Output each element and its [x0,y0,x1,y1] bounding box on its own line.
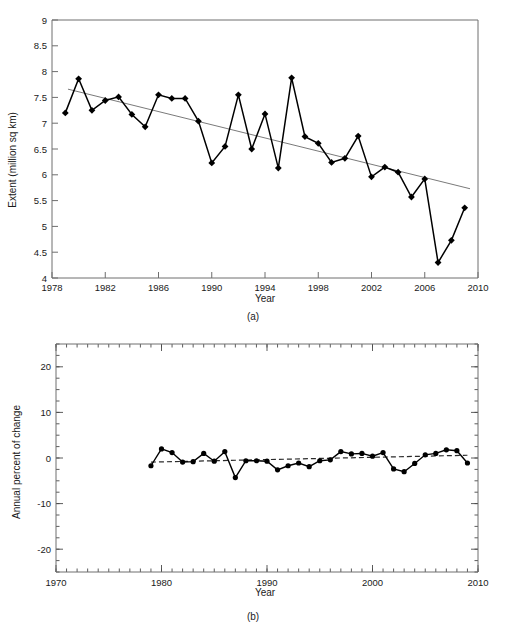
chart-b-data-point [148,463,153,468]
chart-b-x-tick-label: 1980 [151,577,172,588]
chart-b-data-point [465,460,470,465]
chart-b-data-point [169,450,174,455]
chart-b-y-axis-ticks: -20-1001020 [37,344,478,572]
chart-a-data-point [461,204,468,211]
chart-a-data-point [448,237,455,244]
chart-b-data-point [402,469,407,474]
chart-b-data-point [359,451,364,456]
chart-b-data-point [254,458,259,463]
chart-b-data-markers [148,446,470,480]
chart-b-data-point [370,454,375,459]
chart-a-y-tick-label: 8 [42,66,47,77]
chart-b-data-point [317,458,322,463]
chart-b-y-tick-label: -10 [37,498,51,509]
chart-b-x-tick-label: 1970 [45,577,66,588]
chart-a-data-point [262,111,269,118]
chart-a-data-point [302,133,309,140]
chart-b-data-point [275,467,280,472]
chart-a-x-axis-ticks: 197819821986199019941998200220062010 [41,272,488,293]
chart-b-data-point [412,461,417,466]
chart-panel-a: 44.555.566.577.588.59 197819821986199019… [0,0,506,314]
chart-b-data-point [212,459,217,464]
chart-a-data-point [275,165,282,172]
chart-panel-b: -20-1001020 19701980199020002010 Annual … [0,314,506,628]
chart-a-data-point [355,133,362,140]
chart-b-data-point [391,466,396,471]
chart-a-data-point [248,146,255,153]
chart-a-y-tick-label: 6 [42,169,47,180]
chart-a-data-point [155,91,162,98]
chart-a-data-point [235,91,242,98]
chart-a-svg: 44.555.566.577.588.59 197819821986199019… [0,0,506,314]
chart-b-data-point [423,452,428,457]
chart-b-data-point [349,451,354,456]
chart-a-data-line [65,78,464,263]
chart-b-data-point [380,450,385,455]
chart-a-trendline [68,89,470,189]
chart-b-data-point [159,446,164,451]
chart-a-data-point [435,259,442,266]
chart-b-data-point [222,449,227,454]
chart-b-x-tick-label: 2000 [362,577,383,588]
chart-b-data-point [328,457,333,462]
chart-a-y-tick-label: 8.5 [34,40,47,51]
chart-b-x-tick-label: 2010 [467,577,488,588]
chart-a-y-tick-label: 4.5 [34,247,47,258]
chart-a-y-tick-label: 5.5 [34,195,47,206]
chart-b-data-line [151,449,468,478]
chart-b-y-tick-label: 20 [40,361,51,372]
chart-a-plot-frame [52,20,478,278]
chart-a-data-point [195,118,202,125]
chart-a-data-point [182,95,189,102]
chart-b-plot-frame [56,344,478,572]
chart-b-x-axis-ticks: 19701980199020002010 [45,344,488,588]
chart-a-data-point [288,74,295,81]
chart-b-data-point [338,449,343,454]
chart-a-y-tick-label: 9 [42,15,47,26]
chart-b-data-point [296,460,301,465]
chart-b-data-point [286,463,291,468]
chart-a-y-axis-label: Extent (million sq km) [7,112,18,208]
chart-b-data-point [444,447,449,452]
chart-a-y-tick-label: 7.5 [34,92,47,103]
chart-b-data-point [233,475,238,480]
chart-a-y-tick-label: 7 [42,118,47,129]
chart-a-y-tick-label: 6.5 [34,144,47,155]
chart-b-y-axis-label: Annual percent of change [11,405,22,519]
chart-b-y-tick-label: 0 [46,453,51,464]
chart-a-data-point [62,109,69,116]
chart-a-y-axis-ticks: 44.555.566.577.588.59 [34,15,58,284]
chart-b-data-point [180,460,185,465]
chart-b-x-axis-label: Year [255,587,276,598]
panel-a-caption: (a) [247,311,259,322]
chart-a-data-point [341,155,348,162]
chart-b-data-point [201,451,206,456]
figure-sea-ice-extent: 44.555.566.577.588.59 197819821986199019… [0,0,506,628]
chart-b-data-point [264,459,269,464]
chart-b-data-point [307,464,312,469]
chart-a-y-tick-label: 5 [42,221,47,232]
chart-b-y-tick-label: -20 [37,544,51,555]
chart-b-y-tick-label: 10 [40,407,51,418]
chart-b-data-point [433,451,438,456]
panel-b-caption: (b) [247,611,259,622]
chart-a-data-point [75,75,82,82]
chart-b-data-point [243,458,248,463]
chart-b-data-point [191,459,196,464]
chart-a-data-point [168,95,175,102]
chart-b-data-point [454,448,459,453]
chart-b-svg: -20-1001020 19701980199020002010 Annual … [0,314,506,628]
